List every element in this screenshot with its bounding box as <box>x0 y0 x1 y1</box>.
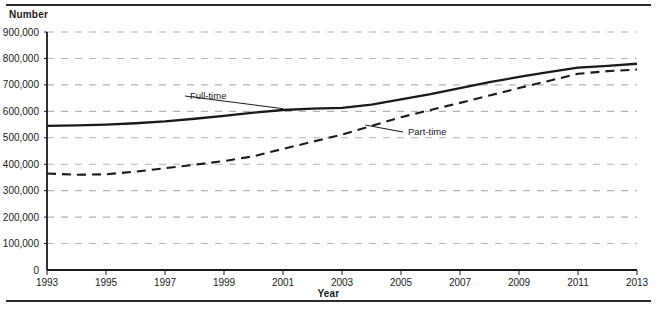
y-tick-label: 400,000 <box>3 159 40 170</box>
y-tick-label: 100,000 <box>3 238 40 249</box>
x-tick-label: 1997 <box>154 277 177 288</box>
series-line-full-time <box>47 64 637 126</box>
bottom-divider <box>6 300 651 302</box>
y-tick-label: 700,000 <box>3 79 40 90</box>
x-tick-label: 2011 <box>567 277 589 288</box>
annotation-full-time-label: Full-time <box>190 90 226 101</box>
annotation-part-time-label: Part-time <box>408 126 447 137</box>
x-tick-label: 1993 <box>36 277 59 288</box>
y-tick-label: 900,000 <box>3 27 40 38</box>
x-tick-label: 2009 <box>508 277 531 288</box>
annotation-part-time-leader <box>366 125 404 132</box>
y-tick-label: 500,000 <box>3 132 40 143</box>
chart-figure: Number 0100,000200,000300,000400,000500,… <box>0 0 657 310</box>
x-tick-label: 2003 <box>331 277 354 288</box>
y-tick-label: 200,000 <box>3 212 40 223</box>
line-chart-plot: 0100,000200,000300,000400,000500,000600,… <box>0 0 657 310</box>
y-tick-label: 600,000 <box>3 106 40 117</box>
x-axis-title: Year <box>0 288 657 299</box>
x-tick-label: 1995 <box>95 277 118 288</box>
x-tick-label: 2007 <box>449 277 472 288</box>
x-tick-label: 1999 <box>213 277 236 288</box>
x-tick-label: 2005 <box>390 277 413 288</box>
y-tick-label: 0 <box>33 265 39 276</box>
y-tick-label: 800,000 <box>3 53 40 64</box>
x-tick-label: 2013 <box>626 277 649 288</box>
x-tick-label: 2001 <box>272 277 295 288</box>
y-tick-label: 300,000 <box>3 185 40 196</box>
